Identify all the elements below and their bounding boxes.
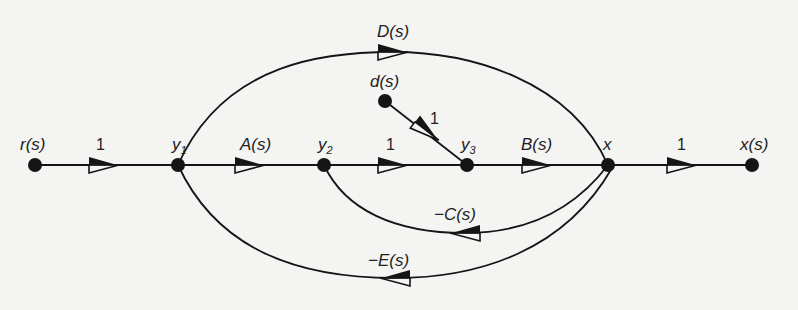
label-x: x: [602, 135, 612, 154]
gain-y1-y2: A(s): [239, 135, 271, 154]
gain-r-y1: 1: [96, 136, 105, 153]
arrow-e-feedback: [380, 270, 410, 286]
gain-e-feedback: −E(s): [368, 251, 409, 270]
node-y1: [171, 158, 185, 172]
label-y2: y2: [317, 135, 333, 156]
arrow-y1-y2: [235, 157, 265, 173]
arrow-y3-x: [522, 157, 552, 173]
node-y3: [460, 158, 474, 172]
gain-y2-y3: 1: [386, 136, 395, 153]
label-r: r(s): [20, 135, 45, 154]
node-r: [28, 158, 42, 172]
arrow-c-feedback: [450, 225, 480, 241]
arrow-d-arc: [378, 44, 408, 60]
node-xs: [745, 158, 759, 172]
arrow-y2-y3: [378, 157, 408, 173]
label-xs: x(s): [739, 135, 768, 154]
arrow-r-y1: [89, 157, 119, 173]
gain-x-xs: 1: [677, 136, 686, 153]
label-y1: y1: [171, 135, 187, 156]
gain-y3-x: B(s): [521, 135, 552, 154]
gain-d-y3: 1: [430, 110, 439, 127]
node-y2: [317, 158, 331, 172]
arrow-x-xs: [667, 157, 697, 173]
node-x: [601, 158, 615, 172]
node-d: [378, 94, 392, 108]
label-d: d(s): [370, 72, 399, 91]
gain-c-feedback: −C(s): [434, 205, 476, 224]
label-y3: y3: [460, 135, 477, 156]
signal-flow-graph: r(s) y1 y2 y3 x x(s) d(s) 1 A(s) 1 B(s) …: [0, 0, 798, 310]
gain-d-arc: D(s): [377, 22, 409, 41]
